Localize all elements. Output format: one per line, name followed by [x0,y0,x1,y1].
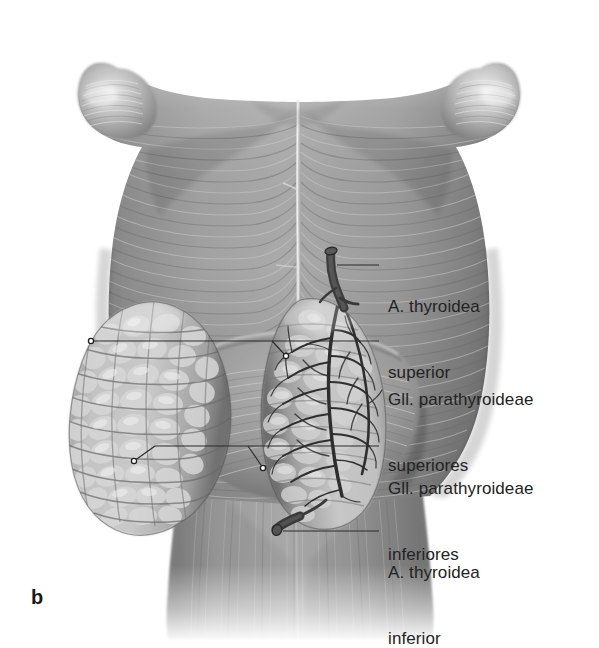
label-line-1: Gll. parathyroideae [388,389,534,411]
dot-parathyroid-inf-left [131,458,136,463]
label-line-2: inferior [388,628,480,648]
label-line-1: A. thyroidea [388,296,480,318]
figure-letter: b [31,586,43,609]
dot-parathyroid-sup-right [283,353,288,358]
dot-parathyroid-sup-left [88,338,93,343]
label-a-thyroidea-inferior: A. thyroidea inferior [388,518,480,648]
label-line-1: Gll. parathyroideae [388,478,534,500]
label-line-1: A. thyroidea [388,562,480,584]
dot-parathyroid-inf-right [260,465,265,470]
